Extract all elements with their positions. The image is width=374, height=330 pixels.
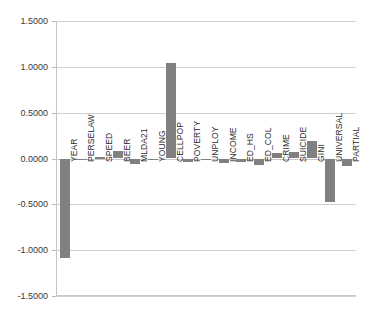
x-axis-category-label: UNPLOY — [210, 126, 220, 162]
gridline — [56, 296, 356, 297]
x-axis-category-label: UNIVERSAL — [334, 112, 344, 161]
y-axis-tick — [52, 159, 56, 160]
gridline — [56, 204, 356, 205]
y-axis-tick — [52, 21, 56, 22]
gridline — [56, 21, 356, 22]
y-axis-tick — [52, 296, 56, 297]
y-axis-tick — [52, 250, 56, 251]
y-axis-tick — [52, 204, 56, 205]
gridline — [56, 67, 356, 68]
y-axis-tick-label: 1.0000 — [0, 62, 48, 72]
gridline — [56, 113, 356, 114]
gridline — [56, 250, 356, 251]
bar-chart: 1.50001.00000.50000.0000-0.5000-1.0000-1… — [0, 0, 374, 330]
y-axis-tick-label: 0.0000 — [0, 154, 48, 164]
y-axis-tick-label: -1.0000 — [0, 245, 48, 255]
x-axis-category-label: POVERTY — [192, 120, 202, 161]
y-axis-labels: 1.50001.00000.50000.0000-0.5000-1.0000-1… — [0, 21, 52, 296]
y-axis-tick — [52, 113, 56, 114]
x-axis-category-label: PARTIAL — [351, 126, 361, 161]
plot-area: YEARPERSELAWSPEEDBEERMLDA21YOUNGCELLPOPP… — [56, 21, 356, 296]
x-axis-category-label: PERSELAW — [86, 114, 96, 162]
y-axis-tick-label: 1.5000 — [0, 16, 48, 26]
y-axis-tick-label: -1.5000 — [0, 291, 48, 301]
bar — [325, 159, 335, 202]
x-axis-category-label: INCOME — [228, 127, 238, 162]
y-axis-tick-label: 0.5000 — [0, 108, 48, 118]
x-axis-category-label: CELLPOP — [175, 122, 185, 162]
y-axis-tick — [52, 67, 56, 68]
chart-title — [0, 0, 374, 12]
x-axis-category-label: MLDA21 — [139, 128, 149, 162]
bar — [60, 159, 70, 259]
x-axis-category-label: ED_HS — [245, 133, 255, 162]
y-axis-tick-label: -0.5000 — [0, 199, 48, 209]
